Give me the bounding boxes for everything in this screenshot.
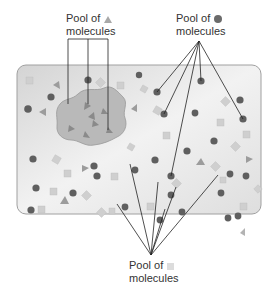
triangle-pool-label: Pool of molecules <box>66 12 116 38</box>
square-pool-label-line1: Pool of <box>129 259 163 271</box>
triangle-icon <box>104 16 112 23</box>
square-icon <box>167 263 174 270</box>
circle-pool-label: Pool of molecules <box>176 12 226 38</box>
square-pool-label: Pool of molecules <box>129 259 179 285</box>
circle-icon <box>214 15 222 23</box>
triangle-pool-label-line2: molecules <box>66 25 116 38</box>
square-pool-label-line2: molecules <box>129 272 179 285</box>
circle-pool-label-line2: molecules <box>176 25 226 38</box>
circle-pool-label-line1: Pool of <box>176 12 210 24</box>
triangle-pool-label-line1: Pool of <box>66 12 100 24</box>
molecule-pool-diagram <box>0 0 280 298</box>
